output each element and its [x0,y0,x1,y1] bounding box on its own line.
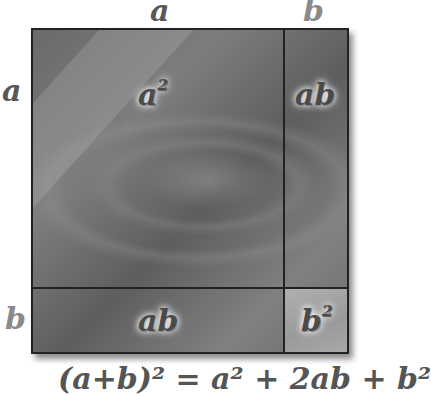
a-squared-label: a2 [138,80,168,110]
light-streak [31,28,205,354]
horizontal-divider [33,287,347,289]
ab-right-label: ab [295,80,335,110]
top-label-b: b [303,0,324,26]
ab-bottom-label: ab [138,306,178,336]
b-squared-exponent: 2 [322,302,332,320]
a-squared-exponent: 2 [157,76,167,94]
binomial-square: a2 ab ab b2 [31,28,349,354]
b-squared-base: b [301,303,322,338]
b-squared-label: b2 [301,306,332,336]
left-label-b: b [5,304,26,334]
left-label-a: a [2,76,21,106]
top-label-a: a [150,0,169,26]
a-squared-base: a [138,77,157,112]
vertical-divider [283,30,285,352]
identity-formula: (a+b)² = a² + 2ab + b² [58,364,431,394]
